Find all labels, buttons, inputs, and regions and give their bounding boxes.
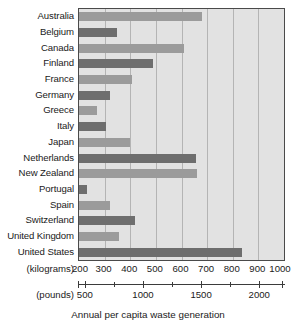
category-label-canada: Canada bbox=[0, 42, 74, 53]
category-label-switzerland: Switzerland bbox=[0, 214, 74, 225]
kg-tick-label-200: 200 bbox=[72, 263, 88, 275]
bar bbox=[79, 59, 153, 68]
bar bbox=[79, 122, 106, 131]
kg-tick-label-300: 300 bbox=[96, 263, 112, 275]
bar bbox=[79, 28, 117, 37]
kilograms-axis: 2003004005006007008009001000 bbox=[78, 263, 285, 276]
pounds-axis-end-cap bbox=[282, 281, 283, 288]
pounds-minor-tick-750 bbox=[114, 282, 115, 287]
kg-tick-label-400: 400 bbox=[121, 263, 137, 275]
bar bbox=[79, 216, 135, 225]
pounds-tick-1500 bbox=[201, 281, 202, 288]
bar-row bbox=[79, 103, 97, 119]
bar bbox=[79, 154, 196, 163]
pounds-tick-2000 bbox=[259, 281, 260, 288]
bar bbox=[79, 248, 242, 257]
bar bbox=[79, 106, 97, 115]
category-label-finland: Finland bbox=[0, 57, 74, 68]
bar bbox=[79, 169, 197, 178]
bar-row bbox=[79, 182, 87, 198]
category-label-japan: Japan bbox=[0, 136, 74, 147]
pounds-tick-label-1000: 1000 bbox=[132, 289, 153, 301]
waste-generation-bar-chart: AustraliaBelgiumCanadaFinlandFranceGerma… bbox=[0, 0, 296, 327]
bar bbox=[79, 185, 87, 194]
bar-row bbox=[79, 213, 135, 229]
pounds-tick-label-2000: 2000 bbox=[249, 289, 270, 301]
bar-row bbox=[79, 197, 110, 213]
bar bbox=[79, 44, 184, 53]
category-label-new-zealand: New Zealand bbox=[0, 167, 74, 178]
bar-row bbox=[79, 25, 117, 41]
plot-area bbox=[78, 8, 285, 261]
kg-tick-label-1000: 1000 bbox=[269, 263, 290, 275]
kg-tick-label-800: 800 bbox=[224, 263, 240, 275]
pounds-axis-unit-label: (pounds) bbox=[2, 289, 74, 301]
bar-row bbox=[79, 87, 110, 103]
pounds-minor-tick-1750 bbox=[230, 282, 231, 287]
bar-row bbox=[79, 72, 132, 88]
bar-row bbox=[79, 56, 153, 72]
bar-row bbox=[79, 150, 196, 166]
category-label-germany: Germany bbox=[0, 89, 74, 100]
pounds-axis-tick-labels: 500100015002000 bbox=[78, 289, 285, 303]
pounds-axis-line bbox=[78, 284, 285, 285]
bar-row bbox=[79, 40, 184, 56]
pounds-tick-label-1500: 1500 bbox=[190, 289, 211, 301]
bar bbox=[79, 12, 202, 21]
bar bbox=[79, 75, 132, 84]
category-label-spain: Spain bbox=[0, 199, 74, 210]
category-label-belgium: Belgium bbox=[0, 26, 74, 37]
bar bbox=[79, 201, 110, 210]
category-label-france: France bbox=[0, 73, 74, 84]
pounds-tick-1000 bbox=[143, 281, 144, 288]
bar-row bbox=[79, 166, 197, 182]
pounds-tick-500 bbox=[85, 281, 86, 288]
pounds-axis bbox=[78, 281, 285, 288]
kg-tick-label-700: 700 bbox=[198, 263, 214, 275]
kg-tick-label-600: 600 bbox=[172, 263, 188, 275]
category-label-united-states: United States bbox=[0, 246, 74, 257]
category-axis-labels: AustraliaBelgiumCanadaFinlandFranceGerma… bbox=[0, 8, 74, 261]
bar-row bbox=[79, 119, 106, 135]
bar bbox=[79, 138, 130, 147]
category-label-australia: Australia bbox=[0, 10, 74, 21]
pounds-axis-end-cap bbox=[78, 281, 79, 288]
category-label-portugal: Portugal bbox=[0, 183, 74, 194]
bars-layer bbox=[79, 9, 284, 260]
pounds-tick-label-500: 500 bbox=[77, 289, 93, 301]
category-label-netherlands: Netherlands bbox=[0, 152, 74, 163]
chart-caption: Annual per capita waste generation bbox=[0, 308, 296, 321]
bar bbox=[79, 91, 110, 100]
category-label-italy: Italy bbox=[0, 120, 74, 131]
kilograms-axis-unit-label: (kilograms) bbox=[2, 263, 74, 275]
bar-row bbox=[79, 9, 202, 25]
kg-tick-label-900: 900 bbox=[249, 263, 265, 275]
kg-tick-label-500: 500 bbox=[147, 263, 163, 275]
pounds-minor-tick-1250 bbox=[172, 282, 173, 287]
category-label-united-kingdom: United Kingdom bbox=[0, 230, 74, 241]
bar-row bbox=[79, 135, 130, 151]
gridline-1000 bbox=[284, 9, 285, 260]
bar-row bbox=[79, 229, 119, 245]
bar bbox=[79, 232, 119, 241]
category-label-greece: Greece bbox=[0, 104, 74, 115]
bar-row bbox=[79, 244, 242, 260]
